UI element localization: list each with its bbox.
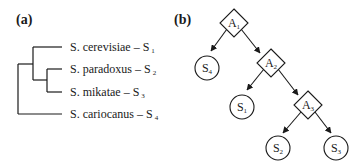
node-s3-label: S3 (326, 141, 346, 159)
phylogenetic-tree (18, 47, 62, 114)
panel-b-label: (b) (174, 12, 191, 28)
species-label-cerevisiae: S. cerevisiae – S1 (70, 40, 155, 58)
species-label-paradoxus: S. paradoxus – S2 (70, 62, 156, 80)
species-label-cariocanus: S. cariocanus – S4 (70, 107, 158, 125)
node-s2-label: S2 (268, 141, 288, 159)
node-a3-label: A3 (298, 98, 318, 116)
species-label-mikatae: S. mikatae – S3 (70, 85, 145, 103)
node-a2-label: A2 (261, 56, 281, 74)
node-s1-label: S1 (232, 100, 252, 118)
decision-tree-edges (211, 29, 331, 133)
node-a1-label: A1 (224, 16, 244, 34)
node-s4-label: S4 (197, 61, 217, 79)
